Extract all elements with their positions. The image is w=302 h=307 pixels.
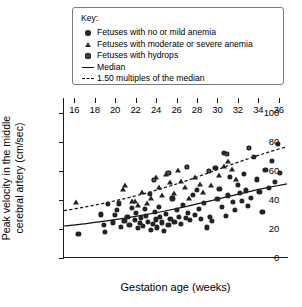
data-point-triangle bbox=[139, 189, 145, 194]
data-point-triangle bbox=[221, 164, 227, 169]
mca-peak-velocity-scatter-figure: Key: Fetuses with no or mild anemia Fetu… bbox=[0, 0, 302, 307]
data-point-triangle bbox=[178, 178, 184, 183]
data-point-triangle bbox=[144, 201, 150, 206]
legend-item-mom: 1.50 multiples of the median bbox=[81, 73, 283, 84]
legend-item-no-or-mild-anemia: Fetuses with no or mild anemia bbox=[81, 27, 283, 38]
data-point-triangle bbox=[192, 174, 198, 179]
data-point-triangle bbox=[122, 182, 128, 187]
data-point-triangle bbox=[197, 181, 203, 186]
legend-box: Key: Fetuses with no or mild anemia Fetu… bbox=[72, 7, 284, 85]
data-point-triangle bbox=[167, 180, 173, 185]
solid-line-icon bbox=[81, 62, 95, 73]
legend-label: Median bbox=[97, 62, 125, 73]
x-axis-title: Gestation age (weeks) bbox=[63, 281, 288, 293]
data-point-triangle bbox=[156, 185, 162, 190]
data-point-triangle bbox=[200, 189, 206, 194]
legend-item-hydrops: Fetuses with hydrops bbox=[81, 50, 283, 61]
legend-label: 1.50 multiples of the median bbox=[97, 73, 205, 84]
y-tick bbox=[59, 258, 64, 259]
data-point-triangle bbox=[175, 168, 181, 173]
data-point-triangle bbox=[216, 173, 222, 178]
legend-item-moderate-or-severe-anemia: Fetuses with moderate or severe anemia bbox=[81, 39, 283, 50]
y-axis-title-text: Peak velocity in the middle cerebral art… bbox=[0, 98, 26, 258]
data-point-triangle bbox=[208, 183, 214, 188]
legend-label: Fetuses with no or mild anemia bbox=[97, 27, 216, 38]
data-point-triangle bbox=[148, 195, 154, 200]
data-point-triangle bbox=[135, 202, 141, 207]
filled-circle-icon bbox=[81, 27, 95, 38]
dashed-line-icon bbox=[81, 73, 95, 84]
shaded-circle-icon bbox=[81, 50, 95, 61]
data-point-triangle bbox=[225, 159, 231, 164]
data-point-triangle bbox=[233, 176, 239, 181]
legend-item-median: Median bbox=[81, 62, 283, 73]
data-layer bbox=[64, 98, 288, 257]
data-point-triangle bbox=[120, 186, 126, 191]
filled-triangle-icon bbox=[81, 39, 95, 50]
y-axis-title: Peak velocity in the middle cerebral art… bbox=[0, 0, 30, 98]
legend-label: Fetuses with moderate or severe anemia bbox=[97, 39, 253, 50]
data-point-triangle bbox=[182, 184, 188, 189]
data-point-triangle bbox=[171, 190, 177, 195]
data-point-triangle bbox=[186, 196, 192, 201]
data-point-triangle bbox=[73, 200, 79, 205]
legend-label: Fetuses with hydrops bbox=[97, 50, 178, 61]
legend-title: Key: bbox=[81, 13, 283, 24]
plot-area: 020406080100 1618202224262830323436 bbox=[63, 98, 288, 258]
data-point-triangle bbox=[159, 193, 165, 198]
data-point-triangle bbox=[229, 167, 235, 172]
